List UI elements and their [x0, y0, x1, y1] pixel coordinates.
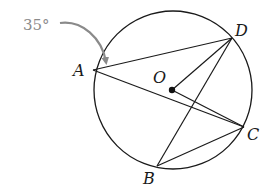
segment-AC	[93, 70, 244, 127]
segment-BC	[157, 127, 244, 166]
point-label-O: O	[153, 68, 166, 87]
point-label-B: B	[142, 169, 155, 187]
angle-label: 35°	[23, 16, 50, 34]
center-point-dot	[169, 87, 175, 93]
point-label-A: A	[71, 61, 85, 80]
segment-DB	[157, 38, 232, 166]
angle-arrow-icon	[60, 23, 106, 62]
segment-DO	[172, 38, 232, 90]
point-label-C: C	[247, 125, 259, 144]
segment-AD	[93, 38, 232, 70]
point-label-D: D	[234, 21, 248, 40]
circle-diagram: 35° A D O C B	[0, 0, 275, 187]
segments	[93, 38, 244, 166]
